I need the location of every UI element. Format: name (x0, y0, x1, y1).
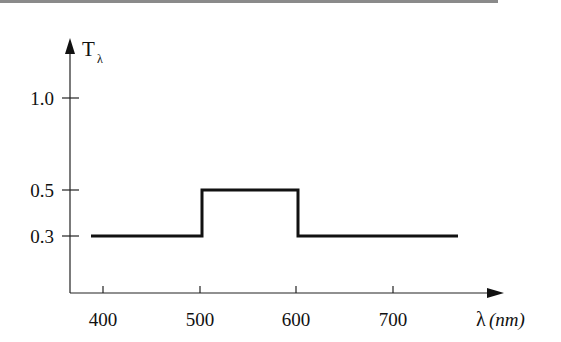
x-axis-label-symbol: λ (476, 308, 486, 330)
x-tick-label: 700 (379, 309, 408, 330)
x-ticks (103, 286, 393, 293)
x-axis-label-unit: (nm) (489, 309, 525, 331)
y-axis-label-subscript: λ (97, 52, 103, 66)
y-tick-label: 0.5 (30, 180, 54, 201)
x-tick-label: 600 (282, 309, 311, 330)
y-axis-label: T (82, 37, 95, 61)
x-tick-label: 400 (89, 309, 118, 330)
transmission-curve (91, 190, 458, 236)
y-axis-arrow-icon (65, 38, 75, 54)
x-axis-arrow-icon (487, 288, 504, 298)
x-tick-label: 500 (186, 309, 215, 330)
chart: 1.0 0.5 0.3 400 500 600 700 T λ λ (nm) (0, 0, 561, 342)
y-tick-label: 1.0 (30, 88, 54, 109)
y-tick-label: 0.3 (30, 226, 54, 247)
